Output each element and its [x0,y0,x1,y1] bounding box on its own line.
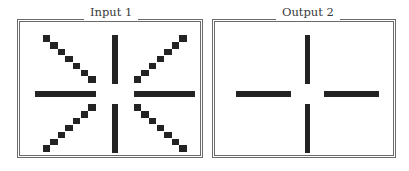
input-panel-frame [17,19,203,158]
diag-northwest-cell [81,70,88,77]
output-pattern-grid [215,22,393,155]
diag-northwest-cell [73,63,80,70]
diag-northeast-cell [149,63,156,70]
diag-southwest-cell [43,145,50,152]
diag-southeast-cell [157,125,164,132]
diag-northeast-cell [179,35,186,42]
diag-southeast-cell [149,118,156,125]
bar-south-cell [112,145,118,153]
input-panel-title: Input 1 [84,4,138,20]
diag-northeast-cell [157,56,164,63]
bar-east-cell [187,91,195,97]
diag-southwest-cell [65,125,72,132]
output-panel-frame [212,19,396,158]
diag-northwest-cell [65,56,72,63]
diag-southwest-cell [88,104,95,111]
diag-northeast-cell [172,42,179,49]
bar-north-cell [112,76,118,84]
diag-northeast-cell [134,76,141,83]
bar-south-cell [305,145,311,153]
diag-southeast-cell [179,145,186,152]
input-pattern-grid [20,22,200,155]
diag-northwest-cell [88,76,95,83]
diag-southeast-cell [164,132,171,139]
diag-southwest-cell [50,139,57,146]
diag-southeast-cell [172,139,179,146]
bar-east-cell [372,91,379,97]
diag-southeast-cell [141,111,148,118]
diag-southwest-cell [73,118,80,125]
diag-southwest-cell [58,132,65,139]
output-panel-title: Output 2 [276,4,340,20]
bar-north-cell [305,76,311,84]
diag-northwest-cell [43,35,50,42]
diag-northwest-cell [50,42,57,49]
bar-west-cell [88,91,96,97]
bar-west-cell [284,91,291,97]
diag-northeast-cell [164,49,171,56]
diag-northeast-cell [141,70,148,77]
diag-northwest-cell [58,49,65,56]
diag-southwest-cell [81,111,88,118]
diag-southeast-cell [134,104,141,111]
